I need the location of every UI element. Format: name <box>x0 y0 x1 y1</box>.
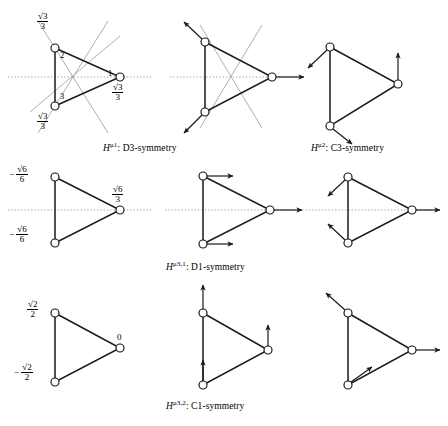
node-right <box>408 206 416 214</box>
node-top <box>51 44 59 52</box>
value-label-bottom-p11: √3 3 <box>37 112 48 131</box>
caption-d3: Hμ1: D3-symmetry <box>103 141 177 153</box>
mirror-line <box>30 36 120 112</box>
value-label-right-p31: 0 <box>117 332 122 342</box>
caption-superscript: μ3,1 <box>173 260 186 268</box>
node-right <box>268 73 276 81</box>
node-right <box>116 344 124 352</box>
caption-d1: Hμ3,1: D1-symmetry <box>166 260 245 272</box>
node-right <box>266 206 274 214</box>
node-right <box>116 206 124 214</box>
value-label-top-p21: − √6 6 <box>9 165 28 184</box>
arrow-down-left <box>308 50 327 68</box>
value-label-bottom-p31: − √2 2 <box>14 363 33 382</box>
triangle-outline <box>203 313 268 385</box>
node-index-bottom: 3 <box>60 91 64 101</box>
node-top <box>199 309 207 317</box>
triangle-outline <box>330 47 398 126</box>
node-bottom <box>344 381 352 389</box>
caption-text: : D3-symmetry <box>117 143 176 153</box>
triangle-outline <box>55 313 120 382</box>
node-top <box>344 309 352 317</box>
caption-text: : C3-symmetry <box>325 143 384 153</box>
minus-sign: − <box>9 230 14 239</box>
node-top <box>326 43 334 51</box>
minus-sign: − <box>14 368 19 377</box>
panel-p33 <box>326 293 440 389</box>
panel-p32 <box>199 285 272 389</box>
caption-superscript: μ3,2 <box>173 399 186 407</box>
node-right <box>116 73 124 81</box>
node-right <box>408 346 416 354</box>
value-label-right-p21: √6 3 <box>112 185 123 204</box>
panel-p23 <box>302 173 440 247</box>
value-label-top-p31: √2 2 <box>27 300 38 319</box>
caption-symbol: H <box>166 401 173 411</box>
arrow-up-left <box>328 224 345 240</box>
caption-text: : C1-symmetry <box>186 401 245 411</box>
node-index-top: 2 <box>60 50 64 60</box>
arrow-up-left <box>326 293 345 310</box>
value-label-right-p11: √3 3 <box>112 83 123 102</box>
node-bottom <box>326 122 334 130</box>
caption-symbol: H <box>166 262 173 272</box>
symmetry-figure: √3 3 √3 3 √3 3 2 1 3 − √6 6 √6 3 − √6 6 … <box>0 0 448 426</box>
node-top <box>201 38 209 46</box>
triangle-outline <box>348 313 412 385</box>
node-top <box>344 173 352 181</box>
value-label-bottom-p21: − √6 6 <box>9 225 28 244</box>
caption-text: : D1-symmetry <box>186 262 245 272</box>
node-bottom <box>51 239 59 247</box>
panel-p12 <box>170 22 304 133</box>
minus-sign: − <box>9 170 14 179</box>
node-top <box>51 173 59 181</box>
panel-p21 <box>8 173 152 247</box>
panel-p22 <box>165 172 302 248</box>
node-bottom <box>344 239 352 247</box>
node-top <box>51 309 59 317</box>
node-right <box>394 80 402 88</box>
caption-c1: Hμ3,2: C1-symmetry <box>166 399 244 411</box>
panel-p31 <box>51 309 124 386</box>
arrow-down-left <box>184 115 202 133</box>
figure-canvas <box>0 0 448 426</box>
triangle-outline <box>203 176 270 244</box>
node-bottom <box>51 102 59 110</box>
value-label-top-p11: √3 3 <box>37 12 48 31</box>
arrow-down-left <box>328 180 345 196</box>
arrow-up-left <box>184 22 202 39</box>
panel-p11 <box>8 21 152 133</box>
node-right <box>264 346 272 354</box>
node-bottom <box>199 240 207 248</box>
arrow-up-right <box>351 367 372 382</box>
caption-symbol: H <box>311 143 318 153</box>
node-bottom <box>199 381 207 389</box>
panel-p13 <box>308 43 402 144</box>
node-index-right: 1 <box>108 68 112 78</box>
node-bottom <box>51 378 59 386</box>
caption-symbol: H <box>103 143 110 153</box>
node-bottom <box>201 108 209 116</box>
triangle-outline <box>205 42 272 112</box>
node-top <box>199 172 207 180</box>
caption-c3: Hμ2: C3-symmetry <box>311 141 384 153</box>
